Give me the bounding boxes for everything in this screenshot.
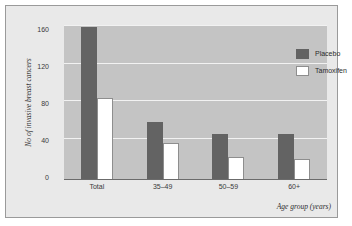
bar-group (212, 25, 244, 180)
bar-group (147, 25, 179, 180)
legend-label-placebo: Placebo (315, 50, 340, 57)
x-axis-title: Age group (years) (216, 202, 331, 211)
bar-tamoxifen-50-59 (228, 157, 244, 180)
y-tick-label-40: 40 (9, 137, 49, 145)
bar-tamoxifen-35-49 (163, 143, 179, 180)
legend-item-placebo: Placebo (296, 48, 352, 59)
y-tick-label-0: 0 (9, 174, 49, 182)
chart-frame: No of invasive breast cancers 160 120 80… (5, 5, 338, 218)
x-axis-line (64, 179, 327, 180)
bar-tamoxifen-60- (294, 159, 310, 180)
y-tick-label-160: 160 (9, 26, 49, 34)
bar-placebo-35-49 (147, 122, 163, 180)
bar-placebo-50-59 (212, 134, 228, 180)
legend-swatch-placebo (296, 49, 309, 59)
bar-tamoxifen-total (97, 98, 113, 180)
x-tick-label-60-: 60+ (249, 183, 339, 190)
bar-placebo-total (81, 27, 97, 180)
plot-area: Placebo Tamoxifen (64, 25, 327, 180)
y-tick-label-120: 120 (9, 63, 49, 71)
y-tick-label-80: 80 (9, 100, 49, 108)
legend-swatch-tamoxifen (296, 66, 309, 76)
legend-item-tamoxifen: Tamoxifen (296, 65, 352, 76)
legend: Placebo Tamoxifen (296, 48, 352, 82)
bar-group (81, 25, 113, 180)
legend-label-tamoxifen: Tamoxifen (315, 67, 347, 74)
bar-placebo-60- (278, 134, 294, 181)
